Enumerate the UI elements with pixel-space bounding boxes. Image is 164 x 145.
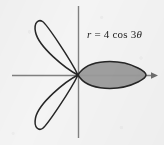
equation-function: cos <box>112 28 127 40</box>
right-petal-fill <box>78 62 146 89</box>
polar-rose-curve-figure: r = 4 cos 3θ <box>0 0 164 145</box>
upper-left-petal <box>35 21 78 75</box>
equation-angle-symbol: θ <box>136 28 142 40</box>
lower-left-petal-outline <box>35 75 78 129</box>
right-petal-shaded <box>78 62 146 89</box>
upper-left-petal-outline <box>35 21 78 75</box>
x-axis-arrowhead <box>151 72 158 78</box>
polar-plot-canvas <box>0 0 164 145</box>
equation-label: r = 4 cos 3θ <box>87 28 142 40</box>
lower-left-petal <box>35 75 78 129</box>
